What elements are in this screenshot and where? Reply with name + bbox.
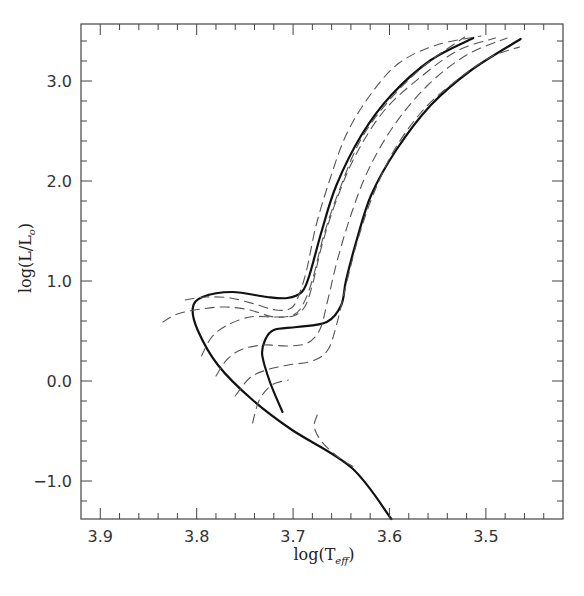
x-tick-label: 3.7 [280, 527, 305, 546]
y-tick-label: 2.0 [47, 172, 72, 191]
evolutionary-tracks [163, 36, 521, 519]
x-axis-title: log(Teff) [293, 545, 354, 566]
track-dashed-ms-segment [314, 415, 356, 468]
y-tick-label: 3.0 [47, 72, 72, 91]
y-axis-title: log(L/Lo) [16, 223, 37, 293]
track-dashed-right [235, 47, 519, 396]
y-tick-label: −1.0 [33, 472, 72, 491]
track-thick-1 [193, 38, 474, 519]
plot-frame [81, 24, 563, 519]
x-tick-label: 3.9 [88, 527, 113, 546]
track-dashed-inner [216, 38, 507, 376]
y-axis-ticks: 3.02.01.00.0−1.0 [33, 41, 563, 501]
x-axis-ticks: 3.93.83.73.63.5 [88, 24, 544, 546]
x-tick-label: 3.6 [377, 527, 402, 546]
y-tick-label: 0.0 [47, 372, 72, 391]
hr-diagram: 3.93.83.73.63.5 3.02.01.00.0−1.0 log(Tef… [0, 0, 584, 596]
y-tick-label: 1.0 [47, 272, 72, 291]
x-tick-label: 3.8 [184, 527, 209, 546]
x-tick-label: 3.5 [473, 527, 498, 546]
